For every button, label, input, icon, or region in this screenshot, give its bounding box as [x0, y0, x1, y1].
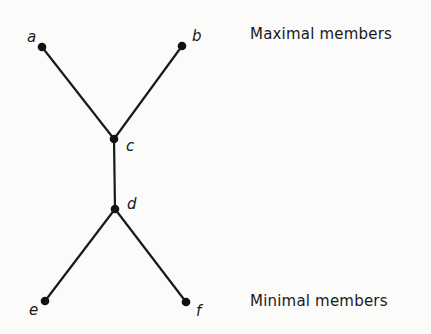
- node-c: [110, 135, 119, 144]
- node-label-a: a: [27, 28, 36, 46]
- node-b: [178, 42, 187, 51]
- minimal-members-label: Minimal members: [250, 292, 388, 310]
- node-a: [38, 43, 47, 52]
- edge-c-d: [114, 139, 115, 209]
- node-label-f: f: [196, 302, 204, 320]
- node-d: [111, 205, 120, 214]
- edge-b-c: [114, 46, 182, 139]
- node-label-d: d: [127, 195, 137, 213]
- node-f: [182, 298, 191, 307]
- diagram-edges: [42, 46, 186, 302]
- edge-d-e: [45, 209, 115, 301]
- node-label-e: e: [29, 301, 38, 319]
- node-label-b: b: [192, 27, 202, 45]
- node-e: [41, 297, 50, 306]
- edge-d-f: [115, 209, 186, 302]
- node-label-c: c: [126, 137, 135, 155]
- maximal-members-label: Maximal members: [250, 25, 392, 43]
- edge-a-c: [42, 47, 114, 139]
- hasse-diagram: abcdef: [0, 0, 431, 334]
